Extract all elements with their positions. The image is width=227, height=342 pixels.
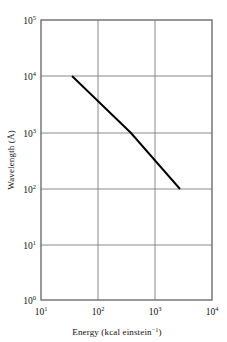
x-axis-title-close: )	[159, 327, 162, 337]
y-tick-exp-1e5: 5	[33, 14, 36, 21]
y-tick-exp-1e3: 3	[33, 127, 36, 134]
x-axis-title-exponent: −1	[152, 326, 159, 333]
x-axis-title: Energy (kcal einstein−1)	[72, 326, 162, 337]
y-axis-title: Wavelength (Å)	[6, 130, 16, 190]
figure-container: 105 104 103 102 101 100 101 102 103 104 …	[0, 0, 227, 342]
log-log-plot: 105 104 103 102 101 100 101 102 103 104 …	[0, 0, 227, 342]
x-tick-exp-1e1: 1	[44, 305, 47, 312]
y-tick-exp-1e2: 2	[33, 183, 36, 190]
x-axis-title-base: Energy (kcal einstein	[72, 327, 152, 337]
y-tick-exp-1e1: 1	[33, 239, 36, 246]
x-tick-exp-1e3: 3	[158, 305, 161, 312]
y-tick-exp-1e0: 0	[33, 294, 36, 301]
plot-background	[0, 0, 227, 342]
x-tick-exp-1e2: 2	[101, 305, 104, 312]
